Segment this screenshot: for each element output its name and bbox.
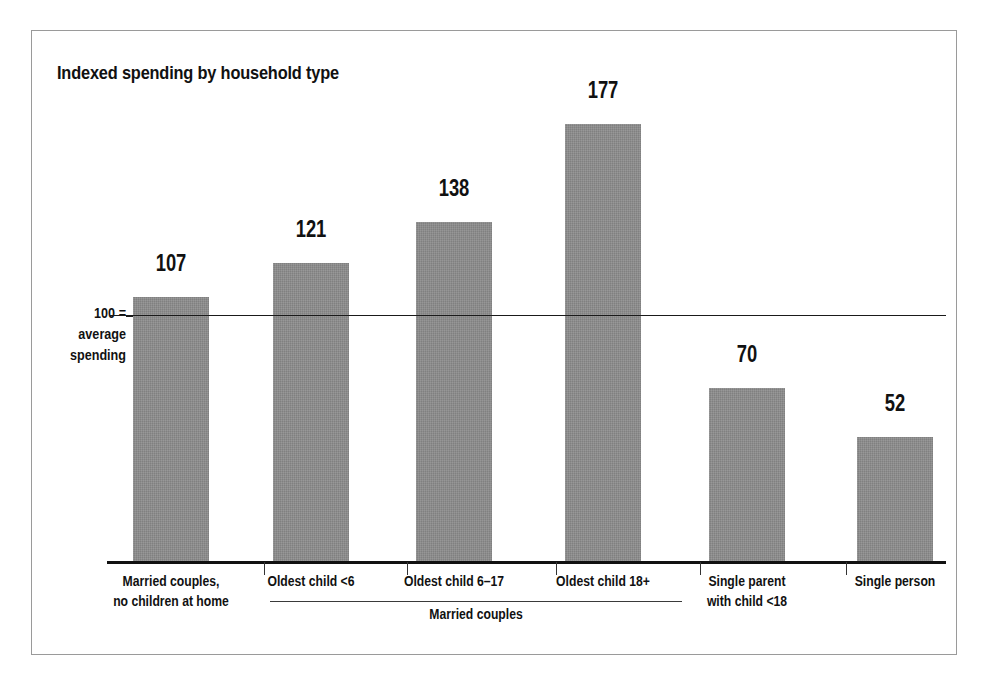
group-bracket-line (270, 601, 682, 602)
reference-label-line-3: spending (59, 344, 126, 365)
bar-single-parent (709, 388, 785, 561)
bar-value-label: 107 (139, 250, 203, 277)
category-label-oldest-child-18-plus: Oldest child 18+ (544, 571, 662, 591)
x-axis-line (107, 561, 946, 564)
category-label-line: Oldest child <6 (252, 571, 370, 591)
category-label-line: Single parent (688, 571, 806, 591)
bar-single-person (857, 437, 933, 561)
plot-area: 100 = average spending 107 121 138 177 7… (0, 0, 985, 693)
category-label-line: with child <18 (688, 591, 806, 611)
bar-oldest-child-18-plus (565, 124, 641, 561)
reference-label-line-2: average (59, 323, 126, 344)
category-label-line: Oldest child 18+ (544, 571, 662, 591)
category-label-single-person: Single person (836, 571, 954, 591)
category-label-married-no-children: Married couples, no children at home (112, 571, 230, 611)
category-label-oldest-child-under-6: Oldest child <6 (252, 571, 370, 591)
category-label-line: Oldest child 6–17 (395, 571, 513, 591)
reference-line-label: 100 = average spending (59, 302, 126, 365)
bar-value-label: 177 (571, 77, 635, 104)
category-label-single-parent: Single parent with child <18 (688, 571, 806, 611)
category-label-oldest-child-6-17: Oldest child 6–17 (395, 571, 513, 591)
reference-label-line-1: 100 = (59, 302, 126, 323)
group-bracket-label: Married couples (303, 606, 649, 622)
reference-line-100 (110, 315, 946, 316)
bar-oldest-child-under-6 (273, 263, 349, 561)
category-label-line: Married couples, (112, 571, 230, 591)
bar-value-label: 121 (279, 216, 343, 243)
bar-oldest-child-6-17 (416, 222, 492, 561)
bar-value-label: 52 (863, 390, 927, 417)
category-label-line: no children at home (112, 591, 230, 611)
bar-married-no-children (133, 297, 209, 561)
bar-value-label: 70 (715, 341, 779, 368)
bar-value-label: 138 (422, 175, 486, 202)
category-label-line: Single person (836, 571, 954, 591)
